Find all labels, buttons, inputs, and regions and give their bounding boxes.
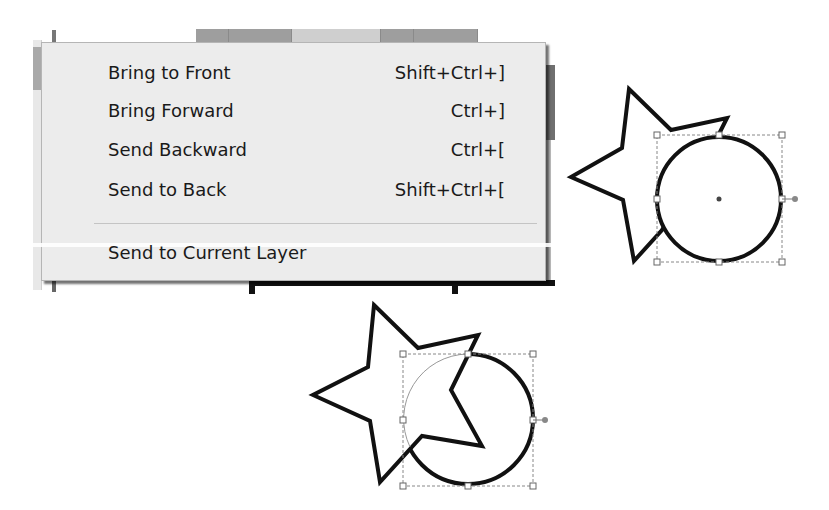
center-point — [717, 197, 722, 202]
resize-handle[interactable] — [779, 259, 785, 265]
resize-handle[interactable] — [716, 259, 722, 265]
resize-handle[interactable] — [654, 196, 660, 202]
example-star-in-front-of-circle — [313, 305, 548, 489]
resize-handle[interactable] — [716, 132, 722, 138]
resize-handle[interactable] — [530, 351, 536, 357]
resize-handle[interactable] — [465, 483, 471, 489]
drawing-canvas — [0, 0, 829, 510]
resize-handle[interactable] — [400, 483, 406, 489]
resize-handle[interactable] — [400, 351, 406, 357]
example-star-behind-circle — [571, 89, 798, 265]
resize-handle[interactable] — [779, 132, 785, 138]
resize-handle[interactable] — [654, 259, 660, 265]
rotate-handle[interactable] — [542, 417, 548, 423]
resize-handle[interactable] — [654, 132, 660, 138]
resize-handle[interactable] — [465, 351, 471, 357]
resize-handle[interactable] — [530, 483, 536, 489]
rotate-handle[interactable] — [792, 196, 798, 202]
resize-handle[interactable] — [400, 417, 406, 423]
